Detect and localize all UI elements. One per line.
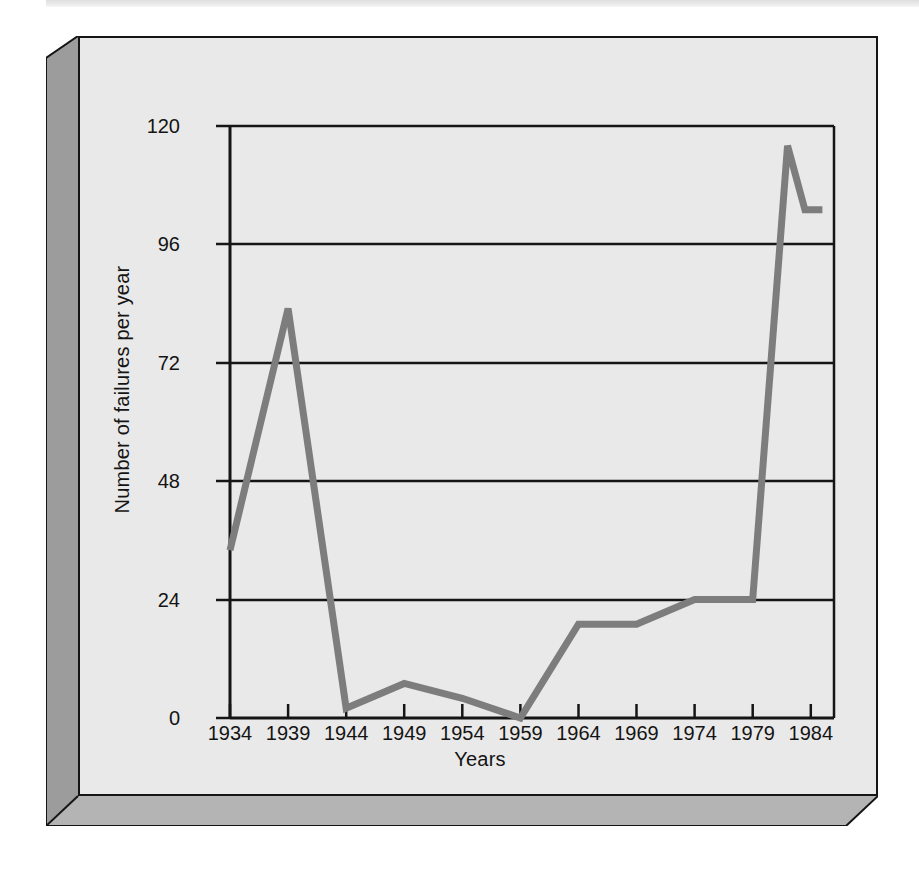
data-series-line xyxy=(230,146,822,718)
x-tick-label: 1949 xyxy=(382,722,427,745)
x-tick-label: 1974 xyxy=(672,722,717,745)
x-tick-label: 1979 xyxy=(730,722,775,745)
x-tick-label: 1944 xyxy=(324,722,369,745)
x-tick-label: 1934 xyxy=(208,722,253,745)
x-tick-label: 1959 xyxy=(498,722,543,745)
x-tick-label: 1969 xyxy=(614,722,659,745)
x-tick-label: 1954 xyxy=(440,722,485,745)
figure-3d-slab: 120 96 72 48 24 0 1934 1939 1944 1949 19… xyxy=(46,36,878,826)
scan-artifact-band xyxy=(46,0,919,7)
x-axis-title: Years xyxy=(80,748,880,771)
x-tick-label: 1984 xyxy=(789,722,834,745)
axis-lines xyxy=(230,126,834,718)
y-tick-label: 120 xyxy=(124,115,180,138)
slab-left-face xyxy=(46,36,79,826)
x-tick-label: 1939 xyxy=(266,722,311,745)
chart-panel: 120 96 72 48 24 0 1934 1939 1944 1949 19… xyxy=(78,36,878,796)
y-tick-label: 24 xyxy=(124,589,180,612)
y-axis-title: Number of failures per year xyxy=(111,260,134,520)
x-tick-label: 1964 xyxy=(556,722,601,745)
y-tick-marks xyxy=(216,126,230,718)
y-tick-label: 96 xyxy=(124,233,180,256)
chart-plot-svg xyxy=(80,38,880,798)
plot-area: 120 96 72 48 24 0 1934 1939 1944 1949 19… xyxy=(80,38,880,798)
